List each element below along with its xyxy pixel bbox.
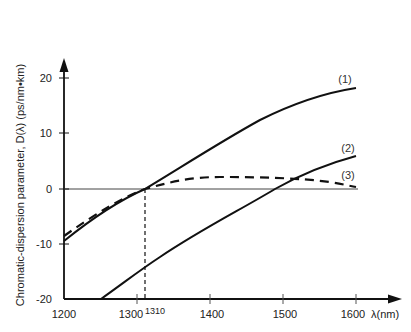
x-tick-label: 1200 bbox=[52, 308, 76, 320]
x-tick-label: 1600 bbox=[341, 308, 365, 320]
y-tick-label: 20 bbox=[40, 72, 52, 84]
y-axis-arrow-icon bbox=[60, 58, 69, 72]
x-tick-label: 1400 bbox=[200, 308, 224, 320]
y-axis-label: Chromatic-dispersion parameter, D(λ) (ps… bbox=[14, 64, 26, 306]
curve-3-label: (3) bbox=[341, 169, 354, 181]
y-tick-label: -10 bbox=[36, 238, 52, 250]
x-tick-label-1310: 1310 bbox=[145, 306, 165, 316]
curve-1 bbox=[64, 88, 356, 241]
y-tick-label: 0 bbox=[46, 183, 52, 195]
curve-2-label: (2) bbox=[341, 142, 354, 154]
x-tick-label: 1300 bbox=[119, 308, 143, 320]
y-tick-label: -20 bbox=[36, 293, 52, 305]
dispersion-chart: 20 10 0 -10 -20 1200 1300 1310 1400 1500… bbox=[0, 0, 411, 332]
y-tick-label: 10 bbox=[40, 127, 52, 139]
x-axis-label: λ(nm) bbox=[371, 308, 399, 320]
x-tick-label: 1500 bbox=[273, 308, 297, 320]
x-axis-arrow-icon bbox=[388, 295, 402, 304]
curve-2 bbox=[101, 156, 356, 299]
curve-1-label: (1) bbox=[338, 73, 351, 85]
